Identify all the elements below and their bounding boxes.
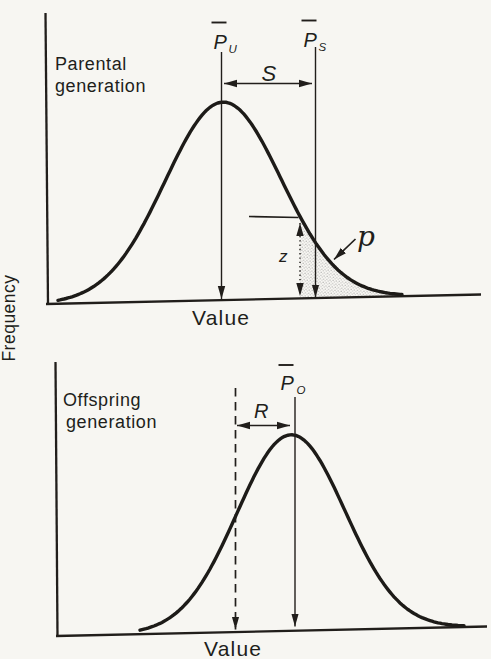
mean-offspring-label: P [281, 372, 295, 394]
parental-title-line2: generation [55, 76, 146, 96]
mean-selected-label: P [304, 29, 318, 51]
mean-offspring-subscript: O [297, 384, 306, 396]
selection-response-figure: Parental generation P U P S S z p Value … [0, 0, 491, 659]
offspring-title-line1: Offspring [63, 390, 141, 410]
proportion-label: p [357, 220, 375, 253]
offspring-x-axis-label: Value [204, 637, 262, 659]
selection-differential-label: S [262, 61, 277, 86]
scanned-textbook-figure: Parental generation P U P S S z p Value … [0, 0, 491, 659]
offspring-y-axis [56, 362, 58, 636]
frequency-axis-label: Frequency [0, 274, 19, 361]
offspring-x-axis [56, 627, 487, 637]
parental-x-axis-label: Value [192, 306, 250, 329]
offspring-title-line2: generation [66, 412, 157, 432]
parental-y-axis [46, 13, 49, 304]
mean-unselected-subscript: U [229, 43, 238, 55]
mean-selected-subscript: S [319, 41, 327, 53]
parental-x-axis [46, 295, 481, 305]
ordinate-label: z [278, 247, 288, 266]
offspring-distribution-curve [140, 435, 464, 630]
parental-title-line1: Parental [55, 54, 127, 74]
mean-unselected-label: P [214, 31, 228, 53]
parental-distribution-curve [58, 102, 402, 300]
proportion-pointer-arrow [334, 239, 356, 260]
ordinate-reference-tick [249, 217, 299, 218]
response-label: R [254, 400, 268, 422]
